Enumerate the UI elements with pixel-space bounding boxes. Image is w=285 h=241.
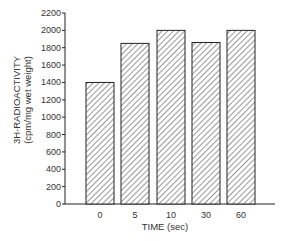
- bar-5: [121, 43, 149, 204]
- bar-chart: 3H-RADIOACTIVITY (cpm/mg wet weight) 020…: [0, 0, 285, 241]
- y-tick-label: 600: [46, 147, 61, 157]
- y-tick-label: 2000: [41, 25, 61, 35]
- y-tick-label: 1400: [41, 77, 61, 87]
- y-tick-label: 1200: [41, 95, 61, 105]
- bar-0: [86, 82, 114, 204]
- bar-30: [192, 43, 220, 204]
- x-tick-label: 10: [166, 210, 176, 220]
- y-tick-label: 400: [46, 164, 61, 174]
- x-tick-label: 5: [132, 210, 137, 220]
- y-tick-label: 2200: [41, 8, 61, 18]
- x-tick-label: 60: [236, 210, 246, 220]
- y-tick-label: 1000: [41, 112, 61, 122]
- plot-area: 0200400600800100012001400160018002000220…: [0, 0, 285, 241]
- x-axis-label: TIME (sec): [142, 221, 188, 232]
- y-tick-label: 1800: [41, 43, 61, 53]
- bars: 05103060: [86, 30, 255, 220]
- y-tick-label: 800: [46, 130, 61, 140]
- bar-10: [157, 30, 185, 204]
- bar-60: [227, 30, 255, 204]
- y-tick-label: 0: [56, 199, 61, 209]
- y-tick-label: 200: [46, 182, 61, 192]
- x-tick-label: 0: [97, 210, 102, 220]
- x-tick-label: 30: [201, 210, 211, 220]
- y-tick-label: 1600: [41, 60, 61, 70]
